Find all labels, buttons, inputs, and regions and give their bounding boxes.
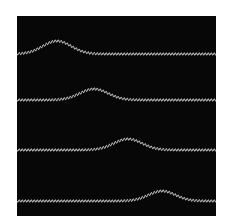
faint-header-text xyxy=(25,1,205,12)
wave-1 xyxy=(17,40,216,55)
wave-plot xyxy=(17,16,216,216)
wave-2 xyxy=(17,88,216,101)
wave-panel xyxy=(17,16,216,216)
wave-3 xyxy=(17,138,216,151)
wave-4 xyxy=(17,190,216,202)
